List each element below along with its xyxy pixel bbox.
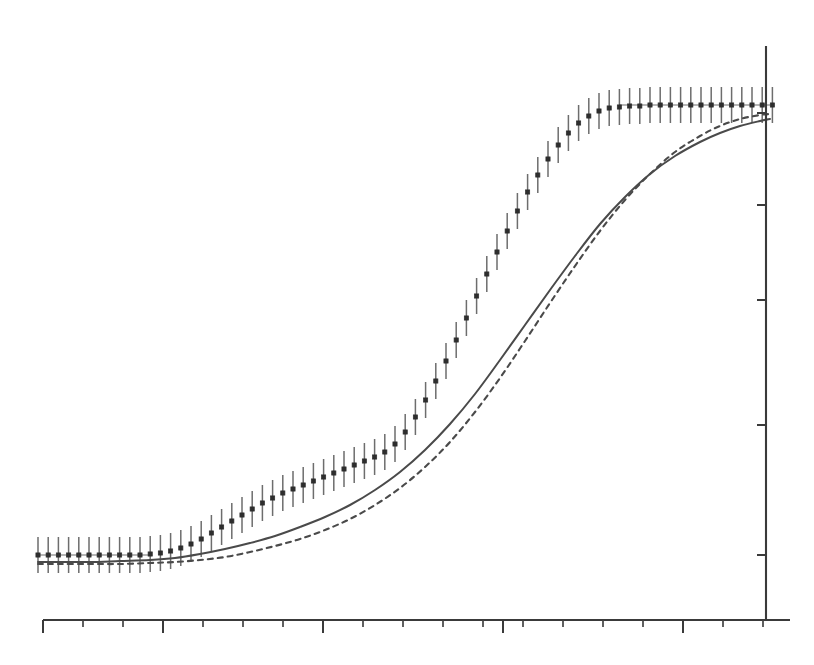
data-point-marker xyxy=(434,379,438,383)
data-point-marker xyxy=(679,103,683,107)
data-point-marker xyxy=(322,475,326,479)
data-point-marker xyxy=(628,104,632,108)
data-point-marker xyxy=(77,553,81,557)
data-point-marker xyxy=(189,542,193,546)
data-point-marker xyxy=(424,398,428,402)
data-point-marker xyxy=(260,501,264,505)
data-point-marker xyxy=(169,549,173,553)
data-point-marker xyxy=(250,507,254,511)
data-point-marker xyxy=(67,553,71,557)
data-point-marker xyxy=(383,450,387,454)
data-point-marker xyxy=(148,552,152,556)
data-point-marker xyxy=(393,442,397,446)
plot-background xyxy=(0,0,814,665)
data-point-marker xyxy=(648,103,652,107)
data-point-marker xyxy=(658,103,662,107)
data-point-marker xyxy=(87,553,91,557)
data-point-marker xyxy=(362,459,366,463)
data-point-marker xyxy=(475,294,479,298)
data-point-marker xyxy=(199,537,203,541)
data-point-marker xyxy=(566,131,570,135)
data-point-marker xyxy=(485,272,489,276)
data-point-marker xyxy=(332,471,336,475)
data-point-marker xyxy=(301,483,305,487)
data-point-marker xyxy=(413,415,417,419)
sigmoid-dose-response-plot xyxy=(0,0,814,665)
data-point-marker xyxy=(546,157,550,161)
data-point-marker xyxy=(587,114,591,118)
data-point-marker xyxy=(271,496,275,500)
data-point-marker xyxy=(770,103,774,107)
data-point-marker xyxy=(128,553,132,557)
data-point-marker xyxy=(138,553,142,557)
data-point-marker xyxy=(352,463,356,467)
data-point-marker xyxy=(107,553,111,557)
data-point-marker xyxy=(597,109,601,113)
data-point-marker xyxy=(515,209,519,213)
data-point-marker xyxy=(719,103,723,107)
data-point-marker xyxy=(526,190,530,194)
data-point-marker xyxy=(556,143,560,147)
data-point-marker xyxy=(291,487,295,491)
data-point-marker xyxy=(209,531,213,535)
data-point-marker xyxy=(56,553,60,557)
data-point-marker xyxy=(699,103,703,107)
data-point-marker xyxy=(230,519,234,523)
data-point-marker xyxy=(505,229,509,233)
data-point-marker xyxy=(668,103,672,107)
data-point-marker xyxy=(750,103,754,107)
data-point-marker xyxy=(36,553,40,557)
data-point-marker xyxy=(617,105,621,109)
data-point-marker xyxy=(158,551,162,555)
data-point-marker xyxy=(730,103,734,107)
data-point-marker xyxy=(179,546,183,550)
data-point-marker xyxy=(281,491,285,495)
data-point-marker xyxy=(536,173,540,177)
data-point-marker xyxy=(577,121,581,125)
figure-root xyxy=(0,0,814,665)
data-point-marker xyxy=(311,479,315,483)
data-point-marker xyxy=(689,103,693,107)
data-point-marker xyxy=(464,316,468,320)
data-point-marker xyxy=(444,359,448,363)
data-point-marker xyxy=(97,553,101,557)
data-point-marker xyxy=(740,103,744,107)
data-point-marker xyxy=(46,553,50,557)
data-point-marker xyxy=(373,455,377,459)
data-point-marker xyxy=(454,338,458,342)
data-point-marker xyxy=(403,430,407,434)
data-point-marker xyxy=(220,525,224,529)
data-point-marker xyxy=(709,103,713,107)
data-point-marker xyxy=(342,467,346,471)
data-point-marker xyxy=(240,513,244,517)
data-point-marker xyxy=(607,106,611,110)
data-point-marker xyxy=(118,553,122,557)
data-point-marker xyxy=(760,103,764,107)
data-point-marker xyxy=(495,250,499,254)
data-point-marker xyxy=(638,104,642,108)
